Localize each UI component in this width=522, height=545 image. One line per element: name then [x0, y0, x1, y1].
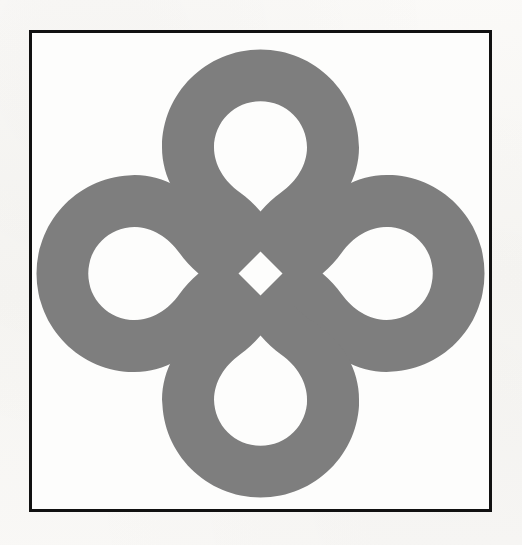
knot-bands	[37, 50, 485, 498]
figure-page	[0, 0, 522, 545]
figure-area	[32, 33, 489, 509]
celtic-knot-figure	[32, 33, 489, 509]
figure-border	[29, 30, 492, 512]
